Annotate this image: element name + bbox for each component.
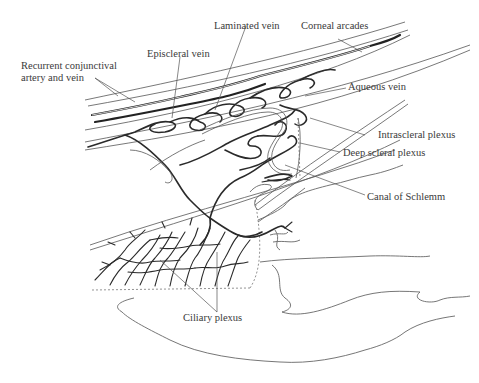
label-corneal-arcades: Corneal arcades (301, 20, 368, 32)
label-recurrent-line1: Recurrent conjunctival (21, 60, 117, 72)
label-recurrent-conjunctival: Recurrent conjunctival artery and vein (21, 60, 117, 84)
label-ciliary-plexus: Ciliary plexus (183, 312, 242, 324)
leader-lines (95, 26, 365, 312)
label-intrascleral-plexus: Intrascleral plexus (378, 129, 455, 141)
intrascleral-loop (130, 108, 292, 183)
label-aqueous-vein: Aqueous vein (348, 81, 406, 93)
label-episcleral-vein: Episcleral vein (147, 48, 210, 60)
label-deep-scleral-plexus: Deep scleral plexus (343, 147, 425, 159)
label-recurrent-line2: artery and vein (21, 72, 117, 84)
label-canal-of-schlemm: Canal of Schlemm (367, 191, 445, 203)
label-laminated-vein: Laminated vein (214, 20, 280, 32)
ciliary-plexus-network (92, 200, 292, 290)
scleral-spur-lines (255, 100, 408, 222)
